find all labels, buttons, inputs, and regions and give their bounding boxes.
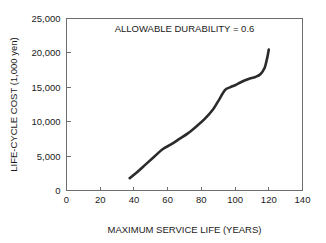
chart-annotations: ALLOWABLE DURABILITY = 0.6 [115, 23, 255, 34]
x-tick-label: 60 [162, 194, 173, 205]
x-tick-label: 100 [227, 194, 243, 205]
y-tick-label: 5,000 [37, 151, 61, 162]
x-axis-title: MAXIMUM SERVICE LIFE (YEARS) [108, 224, 262, 235]
y-tick-label: 15,000 [31, 82, 60, 93]
x-tick-label: 80 [196, 194, 207, 205]
y-tick-label: 0 [55, 185, 60, 196]
x-tick-label: 20 [95, 194, 106, 205]
x-tick-label: 40 [129, 194, 140, 205]
x-tick-label: 140 [295, 194, 311, 205]
life-cycle-cost-chart: 020406080100120140 05,00010,00015,00020,… [0, 0, 326, 243]
y-tick-label: 10,000 [31, 116, 60, 127]
x-tick-label: 0 [64, 194, 69, 205]
y-tick-label: 25,000 [31, 13, 60, 24]
chart-container: 020406080100120140 05,00010,00015,00020,… [0, 0, 326, 243]
allowable-durability-annotation: ALLOWABLE DURABILITY = 0.6 [115, 23, 255, 34]
x-tick-label: 120 [261, 194, 277, 205]
y-tick-label: 20,000 [31, 47, 60, 58]
y-axis-title: LIFE-CYCLE COST (1,000 yen) [8, 37, 19, 171]
